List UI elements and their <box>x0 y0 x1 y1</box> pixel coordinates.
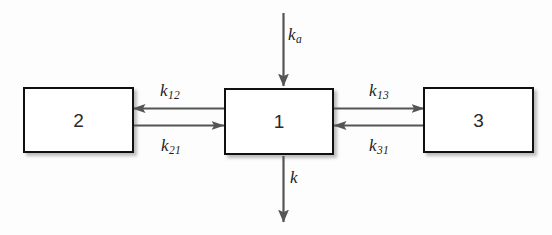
k31-symbol: k <box>369 136 377 155</box>
k12-subscript: 12 <box>168 89 180 101</box>
peripheral-compartment-2: 2 <box>23 87 134 153</box>
compartment-2-label: 2 <box>73 111 84 130</box>
rate-label-k31: k31 <box>369 137 389 154</box>
absorption-rate-subscript: a <box>296 33 302 45</box>
peripheral-compartment-3: 3 <box>423 87 534 153</box>
central-compartment-1: 1 <box>224 88 334 155</box>
k21-symbol: k <box>161 136 169 155</box>
rate-label-k13: k13 <box>369 82 389 99</box>
k21-subscript: 21 <box>169 144 181 156</box>
rate-label-k21: k21 <box>161 137 181 154</box>
absorption-rate-label: ka <box>288 26 302 43</box>
k12-symbol: k <box>160 81 168 100</box>
compartment-1-label: 1 <box>274 112 285 131</box>
rate-label-k12: k12 <box>160 82 180 99</box>
k31-subscript: 31 <box>377 144 389 156</box>
absorption-rate-symbol: k <box>288 25 296 44</box>
elimination-rate-label: k <box>290 169 298 186</box>
elimination-rate-symbol: k <box>290 168 298 187</box>
compartment-3-label: 3 <box>473 111 484 130</box>
k13-symbol: k <box>369 81 377 100</box>
compartment-model-diagram: 2 1 3 ka k12 k21 k13 k31 k <box>0 0 552 235</box>
k13-subscript: 13 <box>377 89 389 101</box>
